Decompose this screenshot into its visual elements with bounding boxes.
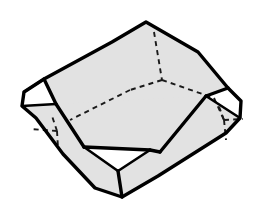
- crystal-illustration: Truncated rectangular prism crystal form…: [0, 0, 256, 214]
- faces-group: [22, 22, 241, 197]
- figure-container: Truncated rectangular prism crystal form…: [0, 0, 256, 214]
